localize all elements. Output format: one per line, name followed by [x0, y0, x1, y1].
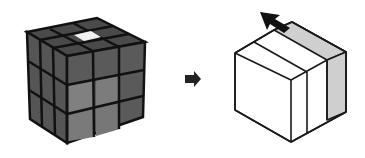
transition-arrow-icon	[185, 71, 201, 87]
diagram-stage	[0, 0, 365, 158]
cube-slice-diagram	[235, 22, 346, 142]
rubiks-cube	[27, 18, 145, 143]
